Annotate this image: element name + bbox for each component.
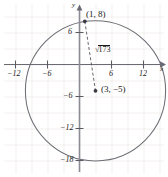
y-tick-label-neg18: −18 xyxy=(60,156,73,164)
grid-lines xyxy=(4,4,164,174)
x-tick-label-neg12: −12 xyxy=(7,70,20,78)
point-marker-1-8 xyxy=(83,19,87,23)
x-tick-label-pos6: 6 xyxy=(109,70,113,78)
x-axis-label: x xyxy=(160,66,163,73)
y-axis-label: y xyxy=(72,2,75,9)
y-tick-label-pos6: 6 xyxy=(68,28,72,36)
x-tick-label-neg6: −6 xyxy=(42,70,51,78)
coordinate-plane-svg xyxy=(0,0,168,177)
point-marker-3-neg5 xyxy=(94,89,98,93)
x-tick-label-pos12: 12 xyxy=(139,70,147,78)
y-tick-label-neg6: −6 xyxy=(63,92,72,100)
graph-figure: y x −12 −6 6 12 6 −6 −12 −18 (1, 8) (3, … xyxy=(0,0,168,177)
radius-length-label: √173 xyxy=(95,45,110,54)
point-label-3-neg5: (3, −5) xyxy=(101,85,126,94)
y-tick-label-neg12: −12 xyxy=(60,124,73,132)
radicand: 173 xyxy=(98,45,110,54)
point-label-1-8: (1, 8) xyxy=(86,10,106,19)
